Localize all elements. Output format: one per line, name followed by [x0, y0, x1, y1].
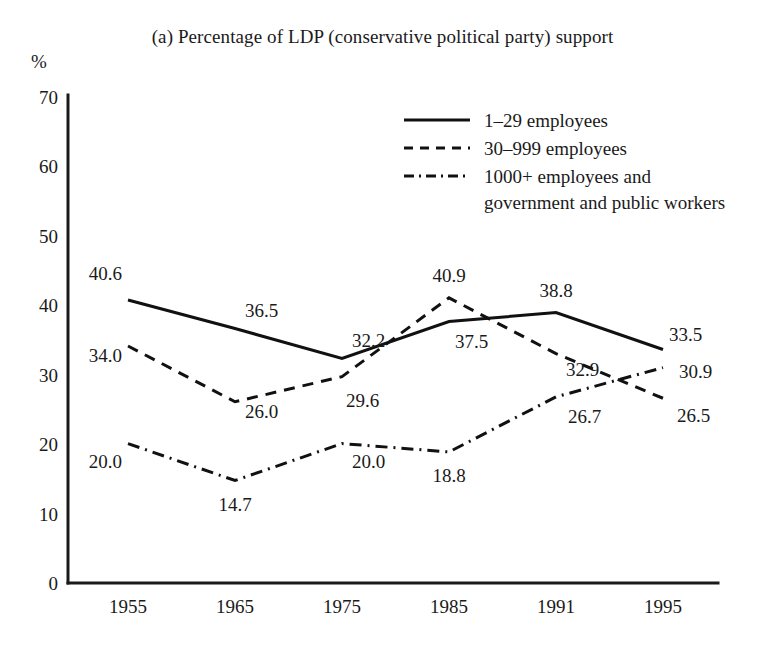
series-line-30-999-employees — [128, 298, 663, 402]
point-value-labels: 40.636.532.237.538.833.534.026.029.640.9… — [89, 263, 713, 515]
x-tick-1975: 1975 — [323, 596, 361, 617]
chart-figure: (a) Percentage of LDP (conservative poli… — [0, 0, 765, 652]
x-tick-1991: 1991 — [537, 596, 575, 617]
legend-label-3-line2: government and public workers — [484, 192, 725, 213]
line-chart-plot: 70 60 50 40 30 20 10 0 1955 1965 1975 19… — [0, 0, 765, 652]
point-label-s2-1955: 34.0 — [89, 345, 122, 366]
y-tick-20: 20 — [39, 434, 58, 455]
x-tick-1965: 1965 — [216, 596, 254, 617]
y-tick-50: 50 — [39, 226, 58, 247]
y-tick-10: 10 — [39, 504, 58, 525]
y-tick-40: 40 — [39, 295, 58, 316]
y-tick-60: 60 — [39, 156, 58, 177]
point-label-s1-1965: 36.5 — [245, 300, 278, 321]
y-tick-0: 0 — [49, 573, 59, 594]
point-label-s2-1991: 32.9 — [566, 359, 599, 380]
point-label-s3-1985: 18.8 — [432, 465, 465, 486]
series-line-1-29-employees — [128, 300, 663, 359]
point-label-s1-1955: 40.6 — [89, 263, 122, 284]
point-label-s3-1975: 20.0 — [352, 451, 385, 472]
x-tick-1985: 1985 — [430, 596, 468, 617]
point-label-s3-1995: 30.9 — [679, 361, 712, 382]
point-label-s3-1965: 14.7 — [218, 494, 251, 515]
legend-label-2: 30–999 employees — [484, 138, 627, 159]
point-label-s2-1975: 29.6 — [346, 390, 379, 411]
point-label-s3-1991: 26.7 — [568, 406, 601, 427]
legend-label-3: 1000+ employees and — [484, 166, 651, 187]
point-label-s3-1955: 20.0 — [89, 451, 122, 472]
point-label-s1-1975: 32.2 — [352, 330, 385, 351]
y-tick-30: 30 — [39, 365, 58, 386]
point-label-s2-1965: 26.0 — [245, 401, 278, 422]
point-label-s1-1995: 33.5 — [669, 324, 702, 345]
point-label-s2-1985: 40.9 — [432, 265, 465, 286]
x-tick-1955: 1955 — [109, 596, 147, 617]
point-label-s1-1985: 37.5 — [455, 331, 488, 352]
point-label-s2-1995: 26.5 — [677, 405, 710, 426]
legend-label-1: 1–29 employees — [484, 110, 608, 131]
y-tick-70: 70 — [39, 87, 58, 108]
x-tick-1995: 1995 — [644, 596, 682, 617]
chart-legend: 1–29 employees 30–999 employees 1000+ em… — [404, 110, 725, 213]
point-label-s1-1991: 38.8 — [539, 280, 572, 301]
